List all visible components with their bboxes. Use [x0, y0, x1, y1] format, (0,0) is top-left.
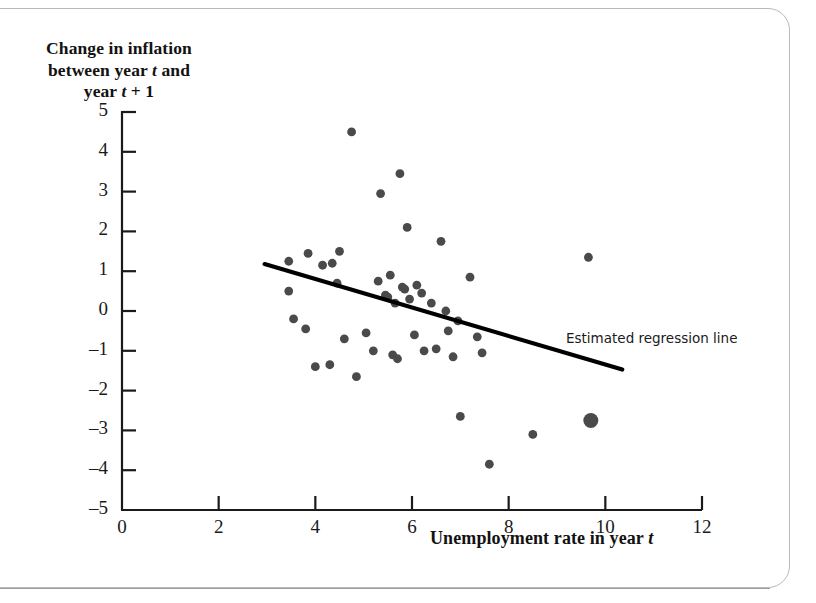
data-point [441, 307, 450, 316]
regression-line [265, 264, 623, 369]
data-point [318, 261, 327, 270]
data-point [284, 257, 293, 266]
x-tick-label-6: 6 [392, 516, 432, 538]
data-point [304, 249, 313, 258]
data-point [325, 360, 334, 369]
data-point [386, 271, 395, 280]
x-tick-label-10: 10 [585, 516, 625, 538]
scatter-plot-figure: Change in inflationbetween year t andyea… [0, 0, 816, 603]
data-point [396, 169, 405, 178]
data-point [328, 259, 337, 268]
data-point [376, 189, 385, 198]
y-tick-label--2: –2 [74, 378, 108, 400]
data-point [347, 127, 356, 136]
data-point [473, 332, 482, 341]
data-point [528, 430, 537, 439]
data-point [420, 346, 429, 355]
data-point [335, 247, 344, 256]
plot-canvas [0, 0, 816, 603]
figure-page: Change in inflationbetween year t andyea… [0, 0, 816, 603]
y-tick-label-1: 1 [74, 258, 108, 280]
data-point [456, 412, 465, 421]
scatter-points [284, 127, 598, 468]
data-point [444, 327, 453, 336]
data-point [437, 237, 446, 246]
y-tick-label-0: 0 [74, 298, 108, 320]
data-point [410, 330, 419, 339]
data-point [432, 344, 441, 353]
x-tick-label-0: 0 [102, 516, 142, 538]
data-point [284, 287, 293, 296]
x-tick-label-8: 8 [489, 516, 529, 538]
data-point [400, 285, 409, 294]
data-point [340, 334, 349, 343]
x-tick-label-2: 2 [199, 516, 239, 538]
y-tick-label--1: –1 [74, 338, 108, 360]
y-tick-label-2: 2 [74, 218, 108, 240]
data-point [352, 372, 361, 381]
y-tick-label-4: 4 [74, 139, 108, 161]
y-tick-label-3: 3 [74, 179, 108, 201]
data-point [449, 352, 458, 361]
data-point [412, 281, 421, 290]
data-point [584, 253, 593, 262]
regression-line-segment [265, 264, 623, 369]
data-point [362, 328, 371, 337]
data-point [374, 277, 383, 286]
data-point [393, 354, 402, 363]
x-tick-label-12: 12 [682, 516, 722, 538]
y-tick-label--3: –3 [74, 417, 108, 439]
data-point [289, 315, 298, 324]
y-tick-label-5: 5 [74, 99, 108, 121]
data-point [478, 348, 487, 357]
data-point [311, 362, 320, 371]
data-point [583, 413, 598, 428]
x-tick-label-4: 4 [295, 516, 335, 538]
data-point [369, 346, 378, 355]
data-point [417, 289, 426, 298]
data-point [405, 295, 414, 304]
axes [121, 111, 702, 510]
y-tick-label--4: –4 [74, 457, 108, 479]
data-point [427, 299, 436, 308]
data-point [485, 460, 494, 469]
data-point [466, 273, 475, 282]
data-point [403, 223, 412, 232]
data-point [301, 325, 310, 334]
